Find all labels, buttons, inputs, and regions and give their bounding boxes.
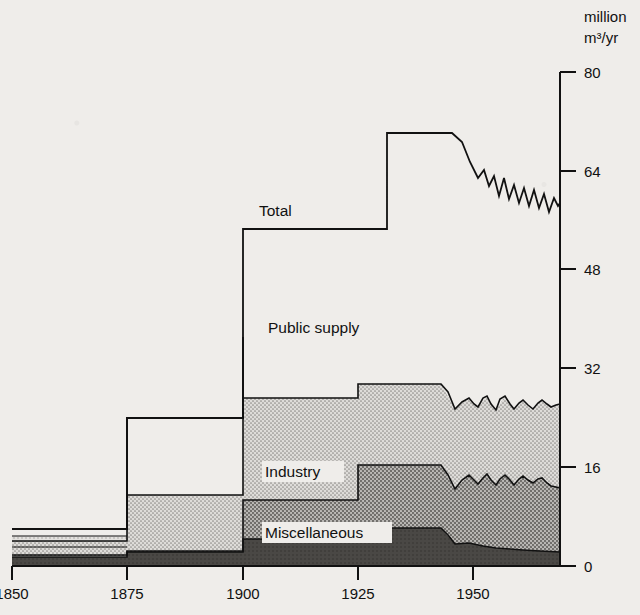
- y-tick-label-32: 32: [584, 360, 601, 377]
- water-use-area-chart: 0 16 32 48 64 80 1850 1875 1900 1925 195…: [0, 0, 640, 615]
- x-tick-label-1875: 1875: [110, 585, 143, 602]
- x-tick-label-1900: 1900: [226, 585, 259, 602]
- unit-label-line1: million: [584, 8, 627, 25]
- y-tick-label-80: 80: [584, 64, 601, 81]
- x-tick-label-1950: 1950: [456, 585, 489, 602]
- x-tick-label-1850: 1850: [0, 585, 29, 602]
- x-ticks: [12, 566, 473, 580]
- y-tick-label-64: 64: [584, 163, 601, 180]
- unit-label-line2: m³/yr: [584, 29, 618, 46]
- y-tick-label-16: 16: [584, 459, 601, 476]
- series-label-miscellaneous: Miscellaneous: [265, 524, 363, 541]
- series-label-total: Total: [259, 202, 292, 219]
- y-tick-label-0: 0: [584, 558, 592, 575]
- y-ticks: [560, 72, 576, 566]
- series-label-industry: Industry: [265, 463, 320, 480]
- y-tick-label-48: 48: [584, 261, 601, 278]
- chart-root: 0 16 32 48 64 80 1850 1875 1900 1925 195…: [0, 0, 640, 615]
- series-label-public-supply: Public supply: [268, 319, 360, 336]
- x-tick-label-1925: 1925: [341, 585, 374, 602]
